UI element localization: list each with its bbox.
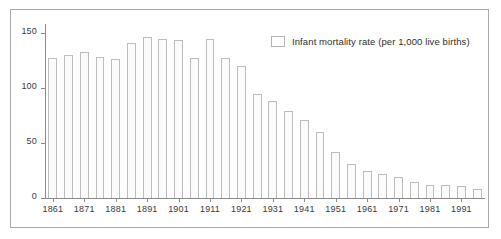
bar (441, 185, 450, 198)
bar (206, 39, 215, 199)
x-axis-tick-mark (461, 198, 462, 202)
x-axis-tick-label: 1991 (451, 204, 472, 214)
y-axis-tick-label: 0 (32, 191, 37, 201)
x-axis-tick-label: 1881 (105, 204, 126, 214)
x-axis-tick-label: 1921 (231, 204, 252, 214)
bar (127, 43, 136, 198)
x-axis-tick-mark (367, 198, 368, 202)
y-axis-tick-label: 50 (27, 136, 37, 146)
legend-swatch-infant-mortality (271, 36, 285, 47)
y-axis-tick-label: 100 (21, 81, 37, 91)
x-axis-tick-mark (430, 198, 431, 202)
bar (363, 171, 372, 199)
bar (426, 185, 435, 198)
bar (331, 152, 340, 198)
bar (221, 58, 230, 198)
x-axis-tick-label: 1961 (357, 204, 378, 214)
x-axis-tick-label: 1861 (42, 204, 63, 214)
bar (253, 94, 262, 199)
x-axis-tick-mark (147, 198, 148, 202)
legend-label-infant-mortality: Infant mortality rate (per 1,000 live bi… (292, 36, 470, 47)
x-axis-tick-mark (116, 198, 117, 202)
bar (190, 58, 199, 198)
x-axis-tick-mark (84, 198, 85, 202)
x-axis-line (45, 198, 485, 199)
x-axis-tick-label: 1911 (200, 204, 220, 214)
plot-area (45, 22, 485, 198)
bar (174, 40, 183, 198)
x-axis-tick-label: 1871 (74, 204, 95, 214)
bar (111, 59, 120, 198)
bar (473, 189, 482, 198)
bar (143, 37, 152, 198)
y-axis-tick-mark (41, 198, 45, 199)
x-axis-tick-label: 1971 (388, 204, 409, 214)
bar (80, 52, 89, 198)
x-axis-tick-label: 1891 (137, 204, 158, 214)
x-axis-tick-mark (241, 198, 242, 202)
bar (158, 39, 167, 199)
bar (316, 132, 325, 198)
x-axis-tick-mark (179, 198, 180, 202)
x-axis-tick-mark (336, 198, 337, 202)
x-axis-tick-mark (399, 198, 400, 202)
x-axis-tick-mark (304, 198, 305, 202)
bar (347, 164, 356, 198)
bar (96, 57, 105, 198)
x-axis-tick-label: 1951 (325, 204, 346, 214)
bar (237, 66, 246, 198)
bar (378, 174, 387, 198)
bar (48, 58, 57, 198)
bar (268, 101, 277, 198)
bar (284, 111, 293, 198)
bar (64, 55, 73, 198)
x-axis-tick-mark (53, 198, 54, 202)
bar (394, 177, 403, 198)
x-axis-tick-label: 1941 (294, 204, 315, 214)
x-axis-tick-mark (210, 198, 211, 202)
chart-figure: 050100150 186118711881189119011911192119… (0, 0, 501, 239)
x-axis-tick-label: 1901 (168, 204, 189, 214)
bar (457, 186, 466, 198)
x-axis-tick-mark (273, 198, 274, 202)
x-axis-tick-label: 1931 (262, 204, 283, 214)
x-axis-tick-label: 1981 (420, 204, 441, 214)
bar (410, 182, 419, 199)
bar (300, 120, 309, 198)
y-axis-tick-label: 150 (21, 26, 37, 36)
chart-legend: Infant mortality rate (per 1,000 live bi… (271, 36, 470, 47)
